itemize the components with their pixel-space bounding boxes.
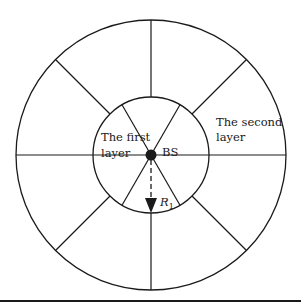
radius-label: R1 [159, 195, 174, 211]
first-layer-label-line2: layer [101, 146, 131, 160]
radius-arrowhead-icon [145, 198, 157, 213]
second-layer-label-line1: The second [216, 115, 283, 129]
first-layer-label-line1: The first [101, 130, 151, 144]
bottom-rule [0, 300, 301, 302]
base-station-dot [146, 150, 157, 161]
cell-layer-diagram: The first layer The second layer BS R1 [0, 0, 301, 305]
base-station-label: BS [162, 145, 178, 159]
second-layer-label-line2: layer [216, 130, 246, 144]
